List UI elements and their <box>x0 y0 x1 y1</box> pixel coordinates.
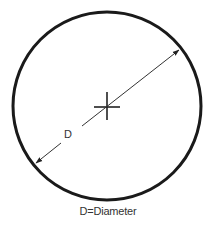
diameter-arrow-lower <box>36 143 61 163</box>
diameter-label: D <box>64 128 72 140</box>
diameter-arrow-upper <box>82 50 179 126</box>
caption: D=Diameter <box>0 205 216 217</box>
diagram-canvas <box>0 0 216 225</box>
